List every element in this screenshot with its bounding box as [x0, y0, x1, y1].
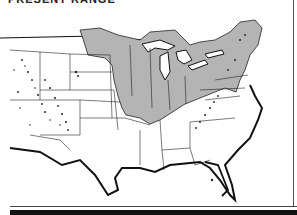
us-range-map	[0, 0, 297, 215]
frame-right-border	[293, 0, 294, 206]
frame-bottom-border	[10, 206, 297, 207]
bottom-rule	[10, 210, 297, 215]
